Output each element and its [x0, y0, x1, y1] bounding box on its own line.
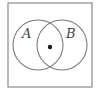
- set-b-circle: [37, 20, 87, 70]
- set-a-label: A: [21, 26, 31, 41]
- set-a-circle: [13, 20, 63, 70]
- set-b-label: B: [65, 26, 76, 41]
- venn-diagram: A B: [0, 0, 98, 92]
- intersection-point: [48, 45, 52, 49]
- venn-diagram-svg: A B: [0, 0, 98, 92]
